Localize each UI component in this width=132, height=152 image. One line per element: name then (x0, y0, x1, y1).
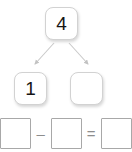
equals-sign-icon: = (83, 126, 99, 141)
arrow-to-right-part-icon (69, 43, 88, 64)
equation-minuend-box[interactable] (0, 118, 31, 149)
arrow-to-left-part-icon (35, 43, 54, 64)
equation-row: – = (0, 117, 132, 150)
number-bond-part-right-box[interactable] (70, 72, 103, 105)
number-bond-part-left-box[interactable]: 1 (14, 72, 47, 105)
equation-subtrahend-box[interactable] (51, 118, 82, 149)
number-bond-whole-value: 4 (56, 14, 67, 33)
number-bond-part-left-value: 1 (25, 79, 36, 98)
equation-difference-box[interactable] (101, 118, 132, 149)
minus-sign-icon: – (33, 126, 49, 141)
number-bond-whole-box[interactable]: 4 (45, 7, 78, 40)
worksheet-canvas: 4 1 – = (0, 0, 132, 152)
